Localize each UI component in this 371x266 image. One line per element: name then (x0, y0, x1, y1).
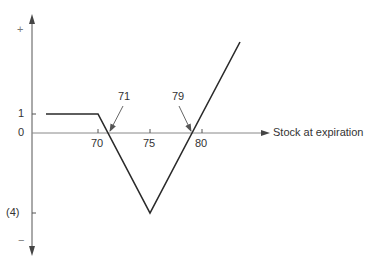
payoff-line (46, 42, 240, 213)
y-axis-up-arrow-icon (29, 14, 35, 24)
annotation-arrow-79 (179, 106, 191, 131)
x-label-70: 70 (91, 138, 103, 149)
y-label-1: 1 (18, 108, 24, 119)
annotation-79: 79 (172, 91, 184, 102)
y-label-0: 0 (18, 127, 24, 138)
y-axis-down-arrow-icon (29, 246, 35, 256)
y-label-minus: − (18, 235, 24, 246)
x-axis-arrow-icon (261, 130, 270, 136)
y-label-4: (4) (6, 207, 19, 218)
annotation-arrow-71 (110, 106, 123, 131)
x-axis-label: Stock at expiration (273, 127, 364, 138)
y-label-plus: + (17, 24, 23, 35)
annotation-71: 71 (118, 91, 130, 102)
x-label-80: 80 (195, 138, 207, 149)
x-label-75: 75 (143, 138, 155, 149)
